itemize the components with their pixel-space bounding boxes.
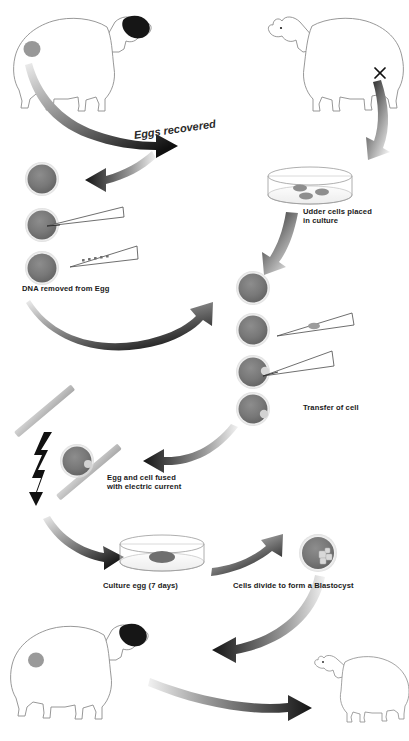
pipette-carrying-cell-icon	[277, 313, 354, 336]
label-cells-divide-blastocyst: Cells divide to form a Blastocyst	[233, 581, 354, 590]
label-dna-removed-from-egg: DNA removed from Egg	[22, 284, 109, 293]
egg-cell-with-donor-cell	[236, 355, 270, 389]
arrow-dish-to-eggs	[262, 212, 298, 275]
donor-cell	[260, 410, 268, 418]
egg-cell-fused	[236, 392, 270, 426]
cloning-diagram: Eggs recovered Udder cells placed in cul…	[0, 0, 409, 741]
donor-cell	[308, 323, 320, 329]
udder-cell	[293, 185, 307, 192]
arrow-to-culture-dish	[43, 516, 124, 570]
label-transfer-of-cell: Transfer of cell	[303, 403, 359, 412]
egg-cells-middle-column	[236, 271, 270, 426]
sheep-surrogate-icon	[11, 624, 149, 719]
diagram-graphics	[0, 0, 409, 741]
electric-current-bolt-icon	[29, 432, 52, 506]
pipette-with-dna-icon	[70, 246, 138, 267]
arrow-to-electrodes	[143, 424, 238, 473]
egg-cells-left-column	[25, 162, 59, 285]
egg-cell-fusing	[60, 444, 94, 478]
lamb-clone-icon	[315, 655, 409, 722]
arrow-to-blastocyst	[211, 534, 283, 576]
sheep-egg-donor-icon	[14, 16, 152, 111]
petri-dish-culture-egg-icon	[120, 535, 204, 571]
udder-cell	[299, 193, 313, 200]
petri-dish-udder-cells-icon	[268, 167, 352, 204]
blastocyst-icon	[299, 534, 337, 572]
label-udder-cells-placed-in-culture: Udder cells placed in culture	[303, 207, 372, 226]
arrow-egg-to-middle	[26, 300, 213, 350]
egg-cell	[25, 251, 59, 285]
arrow-to-egg-column	[85, 151, 156, 192]
udder-cell	[315, 189, 329, 196]
egg-cell	[236, 313, 270, 347]
pipette-icon	[47, 207, 124, 226]
egg-cell	[25, 162, 59, 196]
pipette-delivering-cell-icon	[263, 351, 334, 376]
egg-cell	[236, 271, 270, 305]
label-culture-egg-7-days: Culture egg (7 days)	[103, 581, 178, 590]
electrode-plates-icon	[14, 384, 122, 500]
label-egg-and-cell-fused: Egg and cell fused with electric current	[107, 473, 181, 492]
arrow-surrogate-to-lamb	[148, 678, 312, 721]
